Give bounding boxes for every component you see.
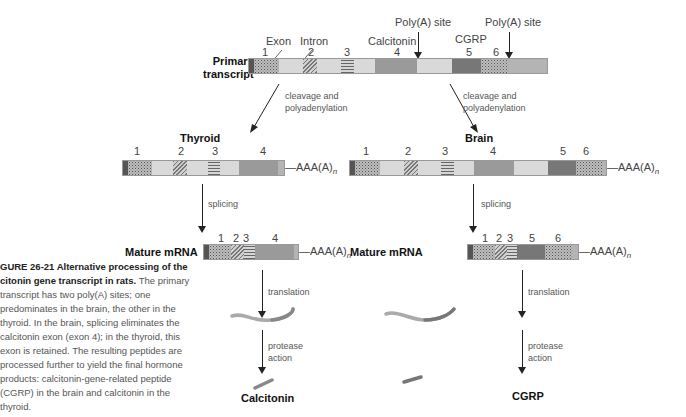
brain-mature-exon-2: 2	[496, 232, 502, 244]
exon-1	[473, 245, 495, 259]
brain-protease-label: protease action	[528, 340, 563, 364]
action-text: action	[268, 352, 303, 364]
brain-translation-arrow	[522, 270, 523, 311]
exon-3	[507, 245, 517, 259]
exon-5	[517, 245, 545, 259]
protease-text: protease	[528, 340, 563, 352]
cgrp-product-label: CGRP	[512, 390, 544, 402]
tail-text: AAA(A)	[590, 245, 627, 257]
action-text: action	[528, 352, 563, 364]
brain-mature-exon-6: 6	[555, 232, 561, 244]
thyroid-protease-arrow	[262, 330, 263, 367]
exon-2	[495, 245, 507, 259]
tail-sub: n	[627, 251, 631, 260]
caption-body: The primary transcript has two poly(A) s…	[0, 275, 189, 412]
brain-mature-exon-1: 1	[482, 232, 488, 244]
protease-text: protease	[268, 340, 303, 352]
thyroid-protease-label: protease action	[268, 340, 303, 364]
arrowhead	[518, 311, 526, 318]
brain-mature-mrna-bar	[467, 244, 579, 260]
brain-mature-mrna-label: Mature mRNA	[350, 246, 423, 258]
brain-mature-polya-tail: —AAA(A)n	[579, 245, 631, 260]
brain-mature-exon-3: 3	[507, 232, 513, 244]
figure-caption: GURE 26-21 Alternative processing of the…	[0, 260, 198, 414]
arrowhead	[258, 367, 266, 374]
tail	[573, 245, 578, 259]
calcitonin-product-label: Calcitonin	[241, 392, 294, 404]
brain-protease-arrow	[522, 330, 523, 367]
brain-mature-exon-5: 5	[529, 232, 535, 244]
exon-6	[545, 245, 573, 259]
brain-translation-label: translation	[528, 286, 570, 298]
arrowhead	[518, 367, 526, 374]
